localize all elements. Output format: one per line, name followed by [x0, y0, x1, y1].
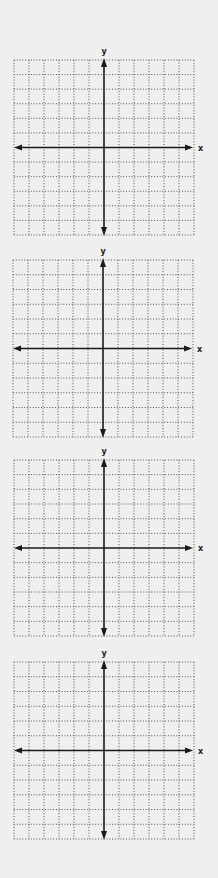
y-axis-label: y [102, 447, 108, 456]
y-axis-label: y [102, 649, 108, 658]
x-axis-right-arrow-icon [185, 145, 193, 151]
x-axis-label: x [198, 544, 204, 553]
y-axis-up-arrow-icon [100, 258, 106, 267]
coordinate-plane-1: xy [14, 47, 204, 236]
x-axis-left-arrow-icon [14, 545, 22, 551]
x-axis-left-arrow-icon [14, 145, 22, 151]
coordinate-plane-3: xy [14, 447, 204, 637]
x-axis-right-arrow-icon [185, 748, 193, 754]
y-axis-up-arrow-icon [101, 458, 107, 467]
coordinate-plane-4: xy [14, 649, 204, 840]
y-axis-down-arrow-icon [101, 227, 107, 236]
y-axis-up-arrow-icon [101, 660, 107, 669]
x-axis-left-arrow-icon [14, 748, 22, 754]
x-axis-label: x [197, 345, 203, 354]
x-axis-label: x [198, 144, 204, 153]
y-axis-label: y [101, 247, 107, 256]
y-axis-down-arrow-icon [101, 628, 107, 637]
coordinate-plane-2: xy [13, 247, 203, 438]
x-axis-left-arrow-icon [13, 346, 21, 352]
x-axis-right-arrow-icon [184, 346, 192, 352]
y-axis-down-arrow-icon [101, 831, 107, 840]
y-axis-up-arrow-icon [101, 58, 107, 67]
coordinate-grid-worksheet: xy xy xy xy [0, 0, 218, 878]
y-axis-down-arrow-icon [100, 429, 106, 438]
x-axis-right-arrow-icon [185, 545, 193, 551]
x-axis-label: x [198, 747, 204, 756]
y-axis-label: y [102, 47, 108, 56]
